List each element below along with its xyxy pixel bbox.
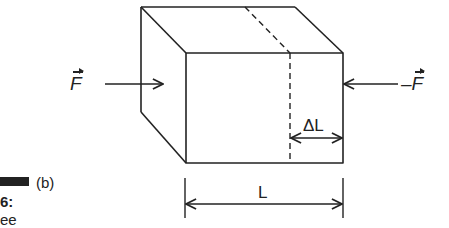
- force-label-left: F: [70, 74, 82, 93]
- delta-length-label: ΔL: [303, 117, 324, 134]
- figure-marker: [0, 177, 29, 186]
- figure-caption-number: 6:: [0, 193, 13, 210]
- force-vector-symbol-left: F: [70, 74, 82, 93]
- deformation-diagram: [0, 0, 449, 228]
- length-label: L: [258, 184, 267, 201]
- original-boundary-dashed: [245, 7, 290, 163]
- force-sign-right: –: [401, 73, 412, 94]
- figure-caption-text: ee: [0, 211, 17, 228]
- block-outline: [141, 7, 343, 163]
- force-label-right: –F: [401, 74, 423, 93]
- force-vector-symbol-right: F: [412, 74, 424, 93]
- figure-part-label: (b): [36, 174, 54, 191]
